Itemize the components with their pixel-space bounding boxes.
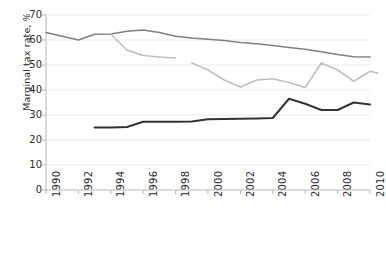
- series-line-middle-line-seg0: [111, 34, 176, 58]
- series-line-top-line: [46, 30, 370, 57]
- series-line-bottom-line: [95, 99, 370, 128]
- series-line-middle-line-seg1: [192, 63, 378, 88]
